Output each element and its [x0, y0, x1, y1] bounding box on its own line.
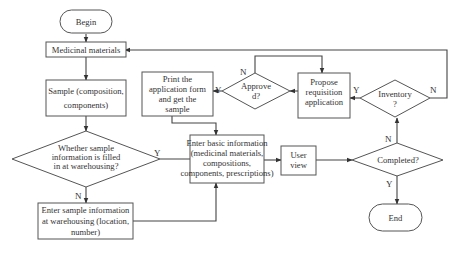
approved-label-line-2: d? — [252, 91, 260, 101]
print-form-box: Print the application form and get the s… — [142, 72, 213, 116]
inventory-decision: Inventory ? — [360, 80, 430, 117]
user-view-line-1: User — [290, 150, 306, 160]
print-form-line-1: Print the — [163, 74, 193, 84]
enter-basic-info-line-2: (medicinal materials, — [191, 148, 264, 158]
medicinal-materials-label: Medicinal materials — [52, 45, 121, 55]
edges — [86, 34, 447, 221]
approved-yes-label: Y — [215, 85, 222, 95]
inventory-label-line-1: Inventory — [378, 89, 412, 99]
approved-label-line-1: Approve — [241, 81, 271, 91]
completed-label: Completed? — [377, 155, 419, 165]
sample-box: Sample (composition, components) — [46, 80, 126, 116]
inventory-label-line-2: ? — [393, 99, 397, 109]
edge-approved-no — [255, 56, 322, 73]
sample-label-line-1: Sample (composition, — [48, 86, 123, 96]
enter-basic-info-line-4: components, prescriptions) — [180, 168, 273, 178]
enter-sample-info-line-3: number) — [71, 227, 100, 237]
sample-label-line-2: components) — [64, 100, 109, 110]
enter-sample-info-line-2: at warehousing (location, — [42, 216, 129, 226]
approved-no-label: N — [240, 67, 247, 77]
inventory-yes-label: Y — [353, 85, 360, 95]
flowchart-canvas: Begin Medicinal materials Sample (compos… — [0, 0, 458, 253]
edge-print-to-basic — [172, 116, 216, 135]
propose-line-1: Propose — [310, 77, 338, 87]
end-label: End — [389, 213, 404, 223]
end-terminator: End — [369, 204, 422, 231]
enter-basic-info-line-3: compositions, — [203, 158, 251, 168]
propose-box: Propose requisition application — [298, 73, 350, 118]
begin-label: Begin — [76, 17, 97, 27]
propose-line-3: application — [305, 97, 344, 107]
enter-basic-info-box: Enter basic information (medicinal mater… — [180, 135, 273, 183]
inventory-no-label: N — [430, 85, 437, 95]
whether-filled-decision: Whether sample information is filled in … — [12, 131, 160, 187]
user-view-box: User view — [281, 146, 316, 175]
medicinal-materials-box: Medicinal materials — [46, 42, 126, 57]
begin-terminator: Begin — [60, 10, 112, 33]
completed-no-label: N — [385, 134, 392, 144]
print-form-line-4: sample — [165, 104, 190, 114]
print-form-line-2: application form — [149, 84, 206, 94]
whether-no-label: N — [75, 191, 82, 201]
propose-line-2: requisition — [306, 87, 343, 97]
print-form-line-3: and get the — [159, 94, 197, 104]
user-view-line-2: view — [290, 160, 307, 170]
completed-decision: Completed? — [352, 143, 443, 176]
completed-yes-label: Y — [386, 179, 393, 189]
enter-sample-info-box: Enter sample information at warehousing … — [38, 203, 133, 239]
whether-label-line-3: in at warehousing? — [54, 161, 119, 171]
enter-basic-info-line-1: Enter basic information — [186, 138, 268, 148]
whether-yes-label: Y — [154, 148, 161, 158]
approved-decision: Approve d? — [222, 73, 290, 109]
edge-sample-info-to-basic — [133, 183, 216, 221]
enter-sample-info-line-1: Enter sample information — [42, 205, 131, 215]
